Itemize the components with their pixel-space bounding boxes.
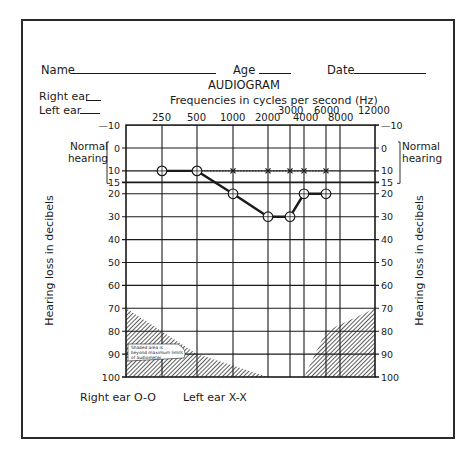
- svg-text:15: 15: [108, 177, 120, 188]
- svg-text:60: 60: [108, 280, 120, 291]
- svg-text:90: 90: [381, 349, 393, 360]
- svg-text:—10: —10: [98, 120, 120, 131]
- svg-text:30: 30: [108, 211, 120, 222]
- svg-text:10: 10: [381, 165, 393, 176]
- svg-text:40: 40: [108, 234, 120, 245]
- svg-text:50: 50: [381, 257, 393, 268]
- svg-text:30: 30: [381, 211, 393, 222]
- svg-text:15: 15: [381, 177, 393, 188]
- svg-text:—10: —10: [381, 120, 403, 131]
- svg-text:20: 20: [381, 188, 393, 199]
- svg-text:40: 40: [381, 234, 393, 245]
- svg-text:50: 50: [108, 257, 120, 268]
- beyond-limits-shading: [126, 308, 375, 377]
- shaded-area-annotation: Shaded area isbeyond maximum limitsof au…: [128, 344, 185, 361]
- svg-text:0: 0: [381, 143, 387, 154]
- figure-caption-cropped: [17, 448, 217, 454]
- svg-text:100: 100: [102, 372, 120, 383]
- svg-text:100: 100: [381, 372, 399, 383]
- svg-text:60: 60: [381, 280, 393, 291]
- svg-text:90: 90: [108, 349, 120, 360]
- svg-text:20: 20: [108, 188, 120, 199]
- svg-text:0: 0: [114, 143, 120, 154]
- svg-text:70: 70: [381, 303, 393, 314]
- svg-text:70: 70: [108, 303, 120, 314]
- audiogram-chart: —10—100010101515202030304040505060607070…: [0, 0, 472, 455]
- svg-text:of audiometer: of audiometer: [131, 355, 162, 360]
- svg-text:10: 10: [108, 165, 120, 176]
- svg-text:80: 80: [381, 326, 393, 337]
- svg-text:80: 80: [108, 326, 120, 337]
